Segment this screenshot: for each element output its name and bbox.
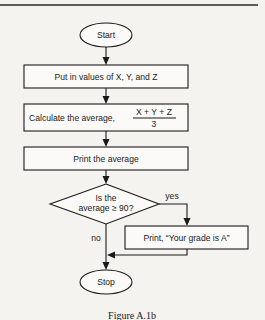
input-values-label: Put in values of X, Y, and Z xyxy=(55,72,158,82)
figure-caption: Figure A.1b xyxy=(108,310,156,320)
decision-line-2: average ≥ 90? xyxy=(79,203,134,213)
formula-denominator: 3 xyxy=(152,119,157,129)
formula-numerator: X + Y + Z xyxy=(136,107,172,117)
start-label: Start xyxy=(97,30,116,40)
connector-no-branch: no xyxy=(91,224,109,270)
calculate-label: Calculate the average, xyxy=(29,113,115,123)
print-grade-label: Print, “Your grade is A” xyxy=(143,233,229,243)
yes-label: yes xyxy=(165,191,178,201)
print-average-label: Print the average xyxy=(73,154,139,164)
flowchart-diagram: Start Put in values of X, Y, and Z Calcu… xyxy=(0,0,265,320)
connector-return-merge xyxy=(107,249,187,259)
stop-label: Stop xyxy=(97,277,115,287)
connector-input-calculate xyxy=(103,88,110,104)
start-terminal: Start xyxy=(80,23,132,47)
decision-line-1: Is the xyxy=(95,193,116,203)
connector-yes-branch: yes xyxy=(159,191,191,226)
process-input-values: Put in values of X, Y, and Z xyxy=(24,65,188,88)
decision-average-ge-90: Is the average ≥ 90? xyxy=(50,184,159,224)
process-print-average: Print the average xyxy=(24,147,188,170)
no-label: no xyxy=(91,233,101,243)
connector-start-input xyxy=(103,47,110,65)
connector-print-decision xyxy=(103,170,110,184)
process-print-grade: Print, “Your grade is A” xyxy=(125,226,248,249)
connector-calculate-print xyxy=(103,131,110,147)
stop-terminal: Stop xyxy=(80,270,132,294)
process-calculate-average: Calculate the average, X + Y + Z 3 xyxy=(24,104,188,131)
